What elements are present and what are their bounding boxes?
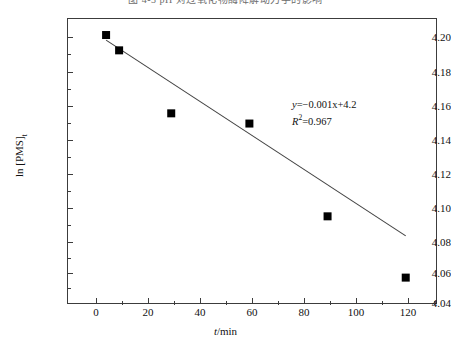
y-tick-label: 4.16 [391, 101, 451, 112]
x-tick-label: 60 [232, 307, 272, 318]
data-point [245, 120, 253, 128]
y-minor-tick [67, 191, 71, 192]
x-minor-tick [174, 301, 175, 305]
y-minor-tick [67, 54, 71, 55]
y-minor-tick [67, 89, 71, 90]
y-axis-title-text: ln [PMS] [13, 136, 25, 177]
y-tick-label: 4.06 [391, 268, 451, 279]
data-point-group [102, 31, 410, 282]
r-squared-number: =0.967 [302, 115, 332, 126]
y-minor-tick [67, 225, 71, 226]
y-tick-4-08 [67, 242, 73, 243]
y-tick-4-10 [67, 208, 73, 209]
x-axis-title-rest: /min [217, 325, 237, 337]
y-tick-4-06 [67, 273, 73, 274]
y-tick-label: 4.12 [391, 169, 451, 180]
regression-equation: y=−0.001x+4.2 [292, 99, 356, 112]
y-tick-4-16 [67, 106, 73, 107]
y-axis-title: ln [PMS]t [13, 111, 28, 201]
data-point [167, 109, 175, 117]
x-tick-label: 40 [180, 307, 220, 318]
x-axis-title: t/min [0, 325, 451, 337]
data-point [324, 212, 332, 220]
x-tick-0 [96, 298, 97, 304]
x-tick-120 [408, 298, 409, 304]
x-tick-80 [304, 298, 305, 304]
x-minor-tick [382, 301, 383, 305]
y-tick-label: 4.14 [391, 135, 451, 146]
y-tick-4-18 [67, 72, 73, 73]
x-minor-tick [278, 301, 279, 305]
x-minor-tick [330, 301, 331, 305]
regression-annotation: y=−0.001x+4.2 R2=0.967 [292, 99, 356, 128]
y-tick-label: 4.08 [391, 237, 451, 248]
data-point [115, 46, 123, 54]
x-minor-tick [434, 301, 435, 305]
y-axis-title-subscript: t [20, 134, 29, 136]
x-tick-label: 0 [76, 307, 116, 318]
x-tick-label: 80 [284, 307, 324, 318]
y-tick-4-04 [67, 303, 73, 304]
y-tick-label: 4.20 [391, 32, 451, 43]
x-tick-label: 20 [128, 307, 168, 318]
x-tick-40 [200, 298, 201, 304]
y-tick-4-20 [67, 37, 73, 38]
y-tick-label: 4.18 [391, 67, 451, 78]
figure-title: 图 4-3 pH 对过氧化物酶降解动力学的影响 [0, 0, 451, 6]
chart-data-layer [67, 18, 437, 304]
x-minor-tick [122, 301, 123, 305]
y-tick-label: 4.10 [391, 203, 451, 214]
x-tick-label: 100 [336, 307, 376, 318]
figure-container: 图 4-3 pH 对过氧化物酶降解动力学的影响 4.20 4.18 4.16 4… [0, 0, 451, 349]
x-minor-tick [226, 301, 227, 305]
data-point [102, 31, 110, 39]
equation-body: =−0.001x+4.2 [297, 99, 357, 110]
x-tick-20 [148, 298, 149, 304]
y-minor-tick [67, 258, 71, 259]
y-tick-4-14 [67, 140, 73, 141]
y-tick-4-12 [67, 174, 73, 175]
fit-line-group [106, 40, 406, 236]
x-tick-label: 120 [388, 307, 428, 318]
y-minor-tick [67, 288, 71, 289]
regression-line [106, 40, 406, 236]
y-minor-tick [67, 123, 71, 124]
y-minor-tick [67, 157, 71, 158]
r-squared-value: R2=0.967 [292, 112, 356, 128]
x-tick-60 [252, 298, 253, 304]
x-tick-100 [356, 298, 357, 304]
